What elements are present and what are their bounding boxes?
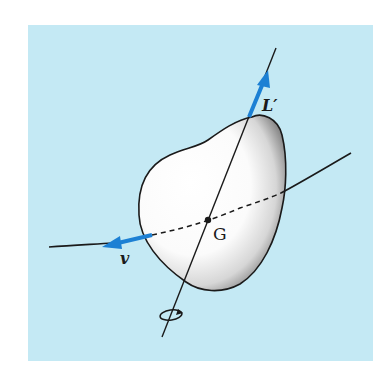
rigid-body-diagram: G L′ v [0, 0, 389, 379]
rigid-body-shape [139, 115, 286, 290]
center-of-mass-dot [205, 217, 211, 223]
velocity-vector [102, 235, 152, 249]
trajectory-right [281, 153, 351, 193]
label-angular-momentum: L′ [261, 96, 278, 115]
label-G: G [213, 224, 227, 244]
label-velocity: v [120, 249, 130, 268]
trajectory-left [49, 243, 112, 247]
